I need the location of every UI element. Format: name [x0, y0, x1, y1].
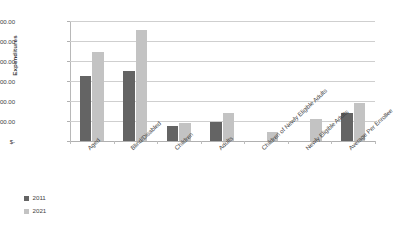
- x-axis-tick-mark: [244, 141, 245, 144]
- bar-2021[interactable]: [136, 30, 148, 141]
- x-axis-tick-mark: [157, 141, 158, 144]
- x-axis-tick-mark: [331, 141, 332, 144]
- y-axis-tick-label: $20,000.00: [0, 58, 15, 65]
- y-axis-tick-label: $10,000.00: [0, 98, 15, 105]
- legend-swatch-2021: [24, 209, 29, 214]
- y-axis-tick-label: $15,000.00: [0, 78, 15, 85]
- y-axis-title: Expenditures: [11, 14, 18, 98]
- bar-2021[interactable]: [92, 52, 104, 141]
- legend-item-2011[interactable]: 2011: [24, 192, 46, 205]
- y-axis-tick-label: $5,000.00: [0, 118, 15, 125]
- bar-group: [70, 21, 114, 141]
- legend-label-2011: 2011: [33, 195, 46, 201]
- y-axis-tick-label: $25,000.00: [0, 38, 15, 45]
- bar-2011[interactable]: [210, 122, 222, 141]
- bar-group: [157, 21, 201, 141]
- legend-item-2021[interactable]: 2021: [24, 205, 46, 218]
- x-axis-tick-mark: [375, 141, 376, 144]
- bar-group: [114, 21, 158, 141]
- legend-label-2021: 2021: [33, 208, 47, 214]
- bar-2011[interactable]: [167, 126, 179, 141]
- legend: 2011 2021: [24, 192, 46, 218]
- legend-swatch-2011: [24, 196, 29, 201]
- bar-group: [201, 21, 245, 141]
- x-axis-tick-mark: [114, 141, 115, 144]
- bar-group: [244, 21, 288, 141]
- y-axis-tick-label: $30,000.00: [0, 18, 15, 25]
- x-axis-tick-mark: [201, 141, 202, 144]
- bar-2011[interactable]: [123, 71, 135, 141]
- x-axis-tick-mark: [288, 141, 289, 144]
- x-axis-tick-mark: [70, 141, 71, 144]
- y-axis-tick-label: $-: [0, 138, 15, 145]
- bar-2011[interactable]: [80, 76, 92, 141]
